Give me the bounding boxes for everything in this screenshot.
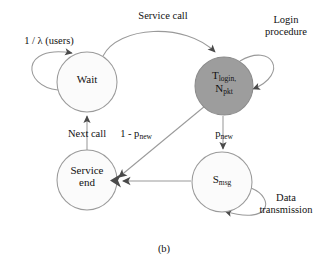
edge-service-call <box>103 31 215 56</box>
edge-label-data-transmission: Data transmission <box>244 192 328 216</box>
figure-caption: (b) <box>0 243 328 254</box>
node-circle-wait <box>57 52 117 112</box>
node-circle-login <box>195 57 253 115</box>
edge-label-arrival-rate: 1 / λ (users) <box>4 35 94 47</box>
node-circle-smsg <box>192 152 252 212</box>
edge-label-data-transmission-line2: transmission <box>244 204 328 216</box>
edge-one-minus-pnew <box>119 106 205 177</box>
state-transition-diagram-figure: Wait Tlogin, Npkt Service end Smsg 1 / λ… <box>0 0 328 274</box>
edge-label-login-procedure: Login procedure <box>248 14 324 38</box>
edge-label-login-procedure-line1: Login <box>248 14 324 26</box>
edge-label-login-procedure-line2: procedure <box>248 26 324 38</box>
node-circle-service-end <box>57 150 117 210</box>
edge-label-one-minus-pnew-sub: new <box>139 132 152 141</box>
edge-label-data-transmission-line1: Data <box>244 192 328 204</box>
edge-label-pnew-sub: new <box>220 132 233 141</box>
edge-label-service-call: Service call <box>108 10 218 22</box>
edge-label-pnew: pnew <box>196 128 252 141</box>
edge-label-one-minus-pnew: 1 - pnew <box>99 128 173 141</box>
